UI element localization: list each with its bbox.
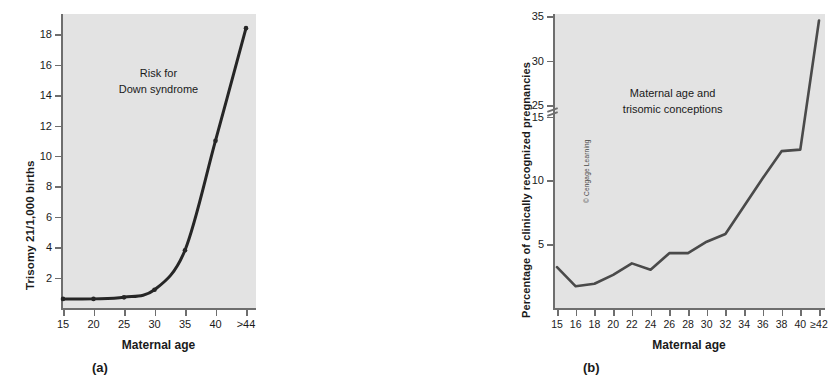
panel-b-y-tick-label: 15 [532,111,544,123]
panel-b-x-tick-label: 32 [720,318,732,330]
panel-b-letter: (b) [583,360,600,375]
panel-a-y-tick-label: 18 [40,28,52,40]
panel-a-x-tick-label: 40 [209,318,221,330]
panel-a-y-tick [55,186,61,188]
panel-a-x-tick [155,310,157,316]
panel-a-y-tick [55,126,61,128]
panel-a-data-line [61,14,256,310]
panel-b-x-tick-label: 36 [757,318,769,330]
panel-a-x-tick [94,310,96,316]
panel-b-y-tick [547,117,553,119]
panel-b-x-tick-label: 40 [794,318,806,330]
panel-a-x-tick-label: 35 [179,318,191,330]
panel-b-x-tick [613,310,615,316]
panel-b-x-tick-label: 38 [776,318,788,330]
panel-a-y-tick [55,65,61,67]
panel-b-y-axis-title: Percentage of clinically recognized preg… [520,62,532,318]
panel-b-y-tick-label: 5 [538,238,544,250]
panel-b: Percentage of clinically recognized preg… [253,0,607,383]
panel-b-y-tick [547,244,553,246]
panel-a-x-axis-title: Maternal age [61,338,256,352]
panel-b-x-tick-label: 26 [663,318,675,330]
panel-a-y-tick-label: 16 [40,59,52,71]
panel-a-x-tick [124,310,126,316]
panel-a-y-tick-label: 14 [40,89,52,101]
panel-b-y-tick-label: 35 [532,10,544,22]
panel-b-x-tick-label: 30 [701,318,713,330]
panel-a-x-tick [246,310,248,316]
panel-b-x-tick [782,310,784,316]
panel-a-x-tick-label: 30 [148,318,160,330]
panel-a-x-tick [63,310,65,316]
panel-a-y-tick-label: 2 [46,272,52,284]
panel-a-plot-area: Risk for Down syndrome 24681012141618152… [61,14,256,310]
panel-b-y-tick [547,180,553,182]
panel-b-y-tick-label: 25 [532,99,544,111]
panel-b-x-tick [763,310,765,316]
panel-b-x-tick [800,310,802,316]
panel-a-y-tick [55,247,61,249]
panel-b-y-tick-label: 30 [532,55,544,67]
panel-b-x-tick-label: 28 [682,318,694,330]
panel-a-y-tick-label: 4 [46,241,52,253]
panel-a-y-tick [55,95,61,97]
panel-b-x-tick [707,310,709,316]
panel-b-x-tick-label: 18 [589,318,601,330]
panel-b-x-tick [594,310,596,316]
panel-b-x-tick [632,310,634,316]
panel-a-x-tick [216,310,218,316]
panel-b-x-tick-label: 16 [570,318,582,330]
panel-b-x-tick-label: 22 [626,318,638,330]
panel-b-x-tick [651,310,653,316]
panel-b-x-tick [576,310,578,316]
panel-b-plot-area: Maternal age and trisomic conceptions 51… [553,14,825,310]
panel-a-y-tick [55,34,61,36]
panel-a-x-tick-label: 15 [57,318,69,330]
panel-b-x-tick [688,310,690,316]
panel-b-x-tick-label: 15 [551,318,563,330]
copyright-credit: © Cengage Learning [583,139,590,203]
panel-a-x-tick [185,310,187,316]
panel-b-x-tick-label: 20 [607,318,619,330]
panel-a-letter: (a) [92,360,108,375]
panel-b-y-tick-label: 10 [532,174,544,186]
panel-a-y-tick-label: 8 [46,180,52,192]
panel-b-y-tick [547,105,553,107]
panel-b-x-tick [819,310,821,316]
panel-a-y-axis-title: Trisomy 21/1,000 births [24,160,36,290]
panel-b-y-tick [547,16,553,18]
panel-b-x-tick [744,310,746,316]
panel-b-x-tick-label: ≥42 [810,318,827,330]
panel-b-data-line [553,14,825,310]
panel-a-y-tick-label: 10 [40,150,52,162]
panel-a-y-tick-label: 12 [40,120,52,132]
panel-a-y-tick [55,278,61,280]
panel-b-y-tick [547,61,553,63]
panel-b-x-tick [725,310,727,316]
panel-b-x-tick-label: 24 [645,318,657,330]
panel-b-x-tick [669,310,671,316]
panel-a-x-tick-label: 25 [118,318,130,330]
panel-a-y-tick-label: 6 [46,211,52,223]
panel-a-x-tick-label: 20 [87,318,99,330]
panel-a-y-tick [55,217,61,219]
panel-a-y-tick [55,156,61,158]
panel-b-x-tick [557,310,559,316]
panel-b-x-tick-label: 34 [738,318,750,330]
panel-b-x-axis-title: Maternal age [553,338,825,352]
